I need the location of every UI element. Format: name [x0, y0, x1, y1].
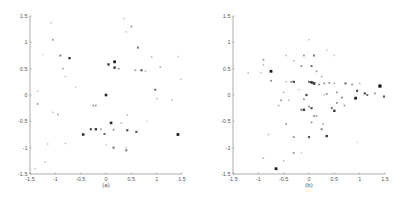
- data-point: [378, 84, 381, 87]
- data-point: [134, 69, 136, 71]
- data-point: [293, 60, 295, 62]
- x-tick-label: 0: [104, 176, 107, 182]
- data-point: [90, 128, 92, 130]
- data-point: [268, 134, 270, 136]
- data-point: [322, 123, 324, 125]
- data-point: [62, 68, 64, 70]
- data-point: [44, 161, 46, 163]
- data-point: [113, 129, 115, 131]
- data-point: [171, 99, 173, 101]
- y-tick-label: 0.5: [20, 66, 28, 72]
- data-point: [290, 81, 292, 83]
- data-point: [303, 98, 305, 100]
- data-point: [52, 39, 54, 41]
- x-tick-label: 0.5: [331, 176, 339, 182]
- data-point: [280, 99, 282, 101]
- data-point: [65, 76, 67, 78]
- data-point: [283, 92, 285, 94]
- data-point: [351, 84, 353, 86]
- data-point: [313, 55, 315, 57]
- data-point: [311, 121, 313, 123]
- scatter-plot-b: -1.5-1-0.500.511.51.510.50-0.5-1-1.5(b): [221, 13, 389, 188]
- data-point: [146, 121, 148, 123]
- y-tick-label: -0.5: [18, 118, 27, 124]
- data-point: [326, 93, 328, 95]
- data-point: [356, 142, 358, 144]
- data-point: [68, 57, 70, 59]
- data-point: [323, 94, 325, 96]
- data-point: [57, 114, 59, 116]
- data-point: [293, 81, 295, 83]
- y-tick-label: 0.5: [223, 66, 231, 72]
- data-point: [50, 22, 52, 24]
- y-tick-label: 1.5: [223, 13, 231, 19]
- data-point: [126, 129, 128, 131]
- data-point: [263, 157, 265, 159]
- data-point: [303, 109, 305, 111]
- x-tick-label: 1.5: [381, 176, 389, 182]
- y-tick-label: -1: [23, 145, 28, 151]
- data-point: [151, 56, 153, 58]
- x-tick-label: 0.5: [128, 176, 136, 182]
- data-point: [100, 128, 102, 130]
- data-point: [145, 71, 147, 73]
- data-point: [318, 84, 320, 86]
- data-point: [359, 83, 361, 85]
- data-point: [336, 102, 338, 104]
- data-point: [110, 122, 113, 125]
- data-point: [301, 152, 303, 154]
- data-point: [270, 80, 272, 82]
- data-point: [125, 31, 127, 33]
- data-point: [334, 83, 336, 85]
- y-tick-label: -1.5: [18, 171, 27, 177]
- data-point: [95, 105, 97, 107]
- data-point: [59, 55, 61, 57]
- data-point: [311, 65, 313, 67]
- data-point: [333, 110, 335, 112]
- data-point: [356, 90, 358, 92]
- x-tick-label: -0.5: [279, 176, 288, 182]
- data-point: [123, 18, 125, 20]
- data-point: [313, 82, 316, 85]
- data-point: [283, 160, 285, 162]
- data-point: [310, 81, 313, 84]
- data-point: [37, 103, 39, 105]
- y-tick-label: -0.5: [221, 118, 230, 124]
- data-point: [95, 128, 97, 130]
- data-point: [364, 92, 366, 94]
- data-point: [125, 147, 127, 149]
- data-point: [308, 81, 310, 83]
- data-point: [344, 105, 346, 107]
- panel-caption: (b): [305, 182, 312, 188]
- data-point: [37, 91, 39, 93]
- data-point: [47, 143, 49, 145]
- data-point: [118, 68, 120, 70]
- data-point: [270, 70, 273, 73]
- data-point: [298, 89, 300, 91]
- x-tick-label: -1: [256, 176, 261, 182]
- y-tick-label: 1: [227, 39, 230, 45]
- data-point: [34, 168, 36, 170]
- data-point: [177, 133, 180, 136]
- data-point: [326, 49, 328, 51]
- data-point: [288, 99, 290, 101]
- data-point: [341, 97, 343, 99]
- data-point: [263, 59, 265, 61]
- y-tick-label: -1.5: [221, 171, 230, 177]
- data-point: [331, 107, 333, 109]
- data-point: [92, 105, 94, 107]
- data-point: [156, 98, 158, 100]
- x-tick-label: -1: [53, 176, 58, 182]
- data-point: [159, 66, 161, 68]
- data-point: [107, 63, 109, 65]
- x-tick-label: 1: [155, 176, 158, 182]
- data-point: [310, 107, 312, 109]
- data-point: [120, 122, 122, 124]
- data-point: [303, 55, 305, 57]
- panel-caption: (a): [102, 182, 109, 188]
- data-point: [52, 112, 54, 114]
- data-point: [42, 54, 44, 56]
- data-point: [113, 66, 115, 68]
- data-point: [137, 47, 139, 49]
- data-point: [321, 128, 323, 130]
